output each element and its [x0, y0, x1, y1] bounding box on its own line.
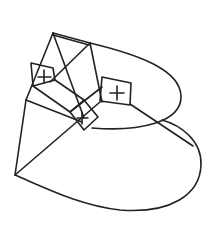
- upper-ellipse-arc: [90, 43, 181, 129]
- outer-edges: [15, 33, 193, 175]
- upper-left-square: [31, 63, 55, 86]
- top-edge: [53, 33, 90, 43]
- left-vertical-edge: [15, 100, 26, 175]
- left-to-center-edge: [26, 100, 82, 122]
- right-square-outline: [100, 77, 131, 105]
- inner-square-edge: [33, 86, 70, 112]
- top-edge-inner: [53, 35, 89, 45]
- right-square: [100, 77, 131, 105]
- upper-left-square-outline: [31, 63, 55, 86]
- right-diagonal-edge: [50, 43, 90, 82]
- plus-icon: [110, 86, 124, 100]
- wireframe-diagram: [0, 0, 219, 228]
- long-diagonal-edge: [130, 104, 193, 146]
- inner-square-edge-2: [55, 80, 84, 100]
